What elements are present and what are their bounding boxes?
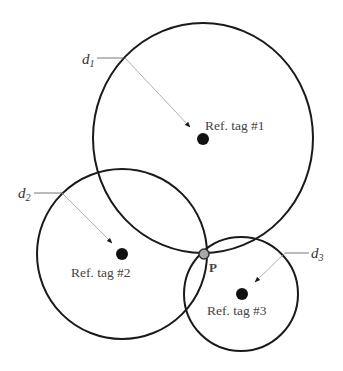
trilateration-diagram: d1 Ref. tag #1 d2 Ref. tag #2 d3 Ref. ta… (0, 0, 343, 371)
ref-tag-1-dot (197, 133, 209, 145)
diagram-svg: d1 Ref. tag #1 d2 Ref. tag #2 d3 Ref. ta… (0, 0, 343, 371)
d1-arrow (125, 58, 190, 127)
d3-label: d3 (311, 245, 324, 263)
ref-tag-3-dot (236, 288, 248, 300)
ref-tag-3-label: Ref. tag #3 (207, 303, 267, 318)
d2-arrow (62, 193, 112, 243)
intersection-label: P (209, 260, 217, 275)
d1-label: d1 (82, 51, 95, 69)
d2-label: d2 (18, 185, 31, 203)
d3-arrow (255, 253, 285, 282)
ref-tag-1-label: Ref. tag #1 (205, 118, 265, 133)
range-circle-2: d2 Ref. tag #2 (18, 169, 207, 339)
intersection-dot (199, 249, 209, 259)
ref-tag-2-label: Ref. tag #2 (71, 265, 131, 280)
ref-tag-2-dot (116, 248, 128, 260)
range-circle-1: d1 Ref. tag #1 (82, 23, 313, 253)
